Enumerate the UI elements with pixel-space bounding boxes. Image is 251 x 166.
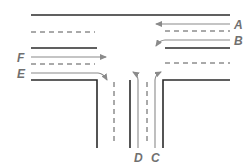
- label-d: D: [134, 151, 143, 165]
- intersection-diagram: A B F E D C: [0, 0, 251, 166]
- left-corner-edge: [31, 80, 97, 148]
- label-e: E: [17, 67, 26, 81]
- right-corner-edge: [163, 80, 230, 148]
- label-c: C: [151, 151, 160, 165]
- label-a: A: [233, 18, 243, 32]
- arrow-b: [156, 40, 230, 46]
- label-b: B: [234, 34, 243, 48]
- arrow-e: [31, 73, 107, 80]
- arrow-d: [133, 72, 138, 148]
- arrow-c: [155, 72, 161, 148]
- label-f: F: [17, 51, 25, 65]
- side-road: [31, 80, 230, 148]
